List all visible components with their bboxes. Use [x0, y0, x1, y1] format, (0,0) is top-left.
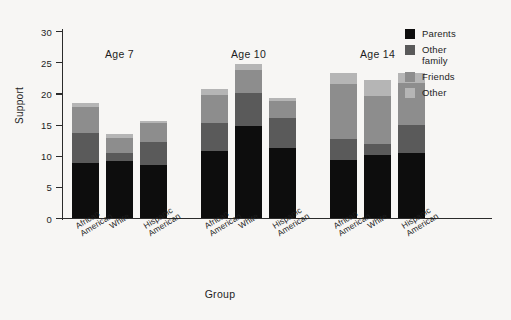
- bar-segment-friends: [140, 123, 167, 142]
- chart-figure: 051015202530 Support Group Age 7Age 10Ag…: [0, 0, 511, 320]
- y-tick: 0: [56, 218, 62, 219]
- bar-segment-other-family: [201, 123, 228, 150]
- bar-segment-other-family: [330, 139, 357, 160]
- legend-swatch-icon: [405, 29, 415, 39]
- legend-item: Other: [405, 87, 505, 98]
- legend-label: Other: [422, 87, 447, 98]
- bar-stack: [364, 80, 391, 218]
- bar-segment-other-family: [398, 125, 425, 153]
- legend-label: Other family: [422, 44, 448, 66]
- bar-segment-friends: [201, 95, 228, 124]
- bar-segment-other-family: [235, 93, 262, 126]
- bar-stack: [106, 134, 133, 218]
- bar-stack: [72, 103, 99, 218]
- bar-stack: [235, 64, 262, 218]
- y-tick-label: 0: [47, 213, 52, 224]
- bar-segment-parents: [364, 155, 391, 218]
- legend-item: Other family: [405, 44, 505, 66]
- bar-segment-friends: [269, 101, 296, 118]
- bar-segment-other-family: [106, 153, 133, 161]
- bar-segment-other-family: [364, 144, 391, 155]
- x-axis-title: Group: [0, 288, 440, 300]
- bar-segment-friends: [330, 84, 357, 139]
- y-axis-title: Support: [14, 87, 25, 124]
- legend-item: Parents: [405, 28, 505, 39]
- y-tick-label: 10: [41, 151, 52, 162]
- bar-stack: [201, 89, 228, 218]
- legend-item: Friends: [405, 71, 505, 82]
- y-tick-label: 30: [41, 26, 52, 37]
- y-tick-label: 20: [41, 88, 52, 99]
- bar-segment-other: [330, 73, 357, 84]
- bar-segment-other-family: [269, 118, 296, 148]
- legend-swatch-icon: [405, 72, 415, 82]
- legend-label: Friends: [422, 71, 455, 82]
- plot-area: [62, 31, 392, 218]
- bar-stack: [330, 73, 357, 218]
- bar-segment-other: [364, 80, 391, 96]
- legend-label: Parents: [422, 28, 456, 39]
- legend-swatch-icon: [405, 45, 415, 55]
- chart-legend: ParentsOther familyFriendsOther: [405, 28, 505, 103]
- bar-segment-friends: [364, 96, 391, 144]
- bar-segment-parents: [235, 126, 262, 218]
- y-tick-label: 15: [41, 120, 52, 131]
- bar-segment-parents: [106, 161, 133, 218]
- bar-segment-friends: [235, 70, 262, 93]
- bar-segment-other-family: [72, 133, 99, 163]
- bar-segment-friends: [72, 107, 99, 133]
- bar-segment-friends: [106, 138, 133, 153]
- y-tick-label: 5: [47, 182, 52, 193]
- bar-stack: [269, 98, 296, 218]
- y-tick-label: 25: [41, 57, 52, 68]
- bar-stack: [140, 121, 167, 218]
- legend-swatch-icon: [405, 88, 415, 98]
- bar-segment-other-family: [140, 142, 167, 165]
